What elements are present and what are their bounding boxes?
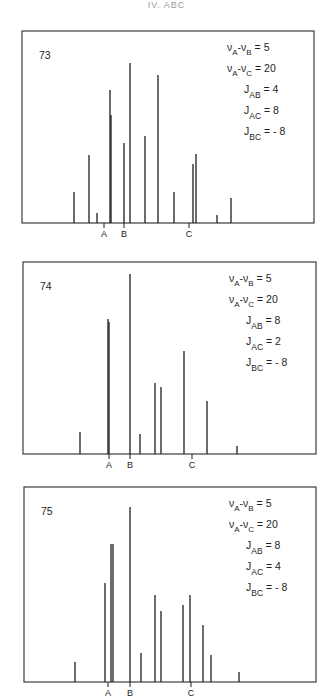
parameter-1: νA-νC = 20: [229, 518, 278, 534]
svg-text:νA-νC = 20: νA-νC = 20: [229, 293, 278, 309]
svg-text:JAB = 4: JAB = 4: [244, 83, 279, 100]
svg-text:JAC = 8: JAC = 8: [244, 104, 279, 121]
spectrum-panel-75: 75ABCνA-νB = 5νA-νC = 20JAB = 8JAC = 4JB…: [24, 487, 316, 698]
panel-number: 73: [39, 49, 51, 61]
parameter-2: JAB = 8: [246, 539, 281, 556]
parameter-3: JAC = 8: [244, 104, 279, 121]
panel-number: 75: [41, 505, 53, 517]
axis-label-C: C: [186, 229, 193, 239]
spectra-figure: 73ABCνA-νB = 5νA-νC = 20JAB = 4JAC = 8JB…: [0, 0, 333, 699]
parameter-1: νA-νC = 20: [227, 62, 276, 78]
svg-text:JBC = - 8: JBC = - 8: [246, 581, 287, 598]
axis-label-A: A: [106, 460, 112, 470]
parameter-4: JBC = - 8: [246, 581, 287, 598]
svg-text:JBC = - 8: JBC = - 8: [246, 356, 287, 373]
parameter-3: JAC = 4: [246, 560, 281, 577]
axis-label-B: B: [121, 229, 127, 239]
svg-text:JAB = 8: JAB = 8: [246, 539, 281, 556]
svg-text:νA-νC = 20: νA-νC = 20: [229, 518, 278, 534]
axis-label-B: B: [127, 460, 133, 470]
svg-text:JBC = - 8: JBC = - 8: [244, 125, 285, 142]
parameter-4: JBC = - 8: [246, 356, 287, 373]
svg-text:JAC = 4: JAC = 4: [246, 560, 281, 577]
axis-label-C: C: [189, 460, 196, 470]
parameter-4: JBC = - 8: [244, 125, 285, 142]
panel-number: 74: [40, 280, 52, 292]
svg-text:νA-νB = 5: νA-νB = 5: [229, 497, 272, 513]
parameter-0: νA-νB = 5: [229, 272, 272, 288]
axis-label-C: C: [188, 688, 195, 698]
svg-text:JAC = 2: JAC = 2: [246, 335, 281, 352]
parameter-2: JAB = 8: [246, 314, 281, 331]
svg-text:νA-νB = 5: νA-νB = 5: [229, 272, 272, 288]
axis-label-A: A: [105, 688, 111, 698]
svg-text:νA-νC = 20: νA-νC = 20: [227, 62, 276, 78]
parameter-0: νA-νB = 5: [229, 497, 272, 513]
parameter-3: JAC = 2: [246, 335, 281, 352]
svg-text:JAB = 8: JAB = 8: [246, 314, 281, 331]
spectrum-panel-73: 73ABCνA-νB = 5νA-νC = 20JAB = 4JAC = 8JB…: [22, 31, 314, 239]
spectrum-panel-74: 74ABCνA-νB = 5νA-νC = 20JAB = 8JAC = 2JB…: [23, 262, 316, 470]
parameter-0: νA-νB = 5: [227, 41, 270, 57]
parameter-2: JAB = 4: [244, 83, 279, 100]
axis-label-B: B: [127, 688, 133, 698]
parameter-1: νA-νC = 20: [229, 293, 278, 309]
svg-text:νA-νB = 5: νA-νB = 5: [227, 41, 270, 57]
axis-label-A: A: [101, 229, 107, 239]
